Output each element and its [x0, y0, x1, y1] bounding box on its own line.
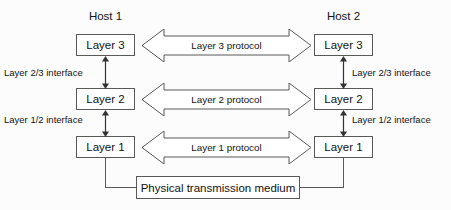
host2-interface-23-arrow — [337, 56, 350, 89]
host2-layer1-box[interactable]: Layer 1 — [314, 136, 373, 158]
host1-layer3-box[interactable]: Layer 3 — [76, 34, 135, 56]
layer2-protocol-label: Layer 2 protocol — [142, 94, 311, 105]
label-layer12-interface-left: Layer 1/2 interface — [4, 114, 83, 125]
host1-medium-connector-horizontal — [105, 187, 137, 188]
host1-interface-23-arrow — [99, 56, 112, 89]
host2-interface-12-arrow — [337, 110, 350, 137]
label-layer12-interface-right: Layer 1/2 interface — [352, 114, 431, 125]
host2-medium-connector-vertical — [343, 158, 344, 188]
physical-transmission-medium-box[interactable]: Physical transmission medium — [136, 176, 300, 199]
label-layer23-interface-left: Layer 2/3 interface — [4, 67, 83, 78]
host1-medium-connector-vertical — [105, 158, 106, 188]
host2-layer3-box[interactable]: Layer 3 — [314, 34, 373, 56]
host2-medium-connector-horizontal — [300, 187, 344, 188]
host1-interface-12-arrow — [99, 110, 112, 137]
host-title-host1: Host 1 — [76, 10, 135, 22]
host-title-host2: Host 2 — [314, 10, 373, 22]
host1-layer2-box[interactable]: Layer 2 — [76, 88, 135, 110]
host2-layer2-box[interactable]: Layer 2 — [314, 88, 373, 110]
layer3-protocol-label: Layer 3 protocol — [142, 40, 311, 51]
host1-layer1-box[interactable]: Layer 1 — [76, 136, 135, 158]
layer1-protocol-label: Layer 1 protocol — [142, 142, 311, 153]
label-layer23-interface-right: Layer 2/3 interface — [352, 67, 431, 78]
layered-protocol-diagram: Host 1 Host 2 Layer 3 Layer 2 Layer 1 La… — [0, 0, 451, 210]
